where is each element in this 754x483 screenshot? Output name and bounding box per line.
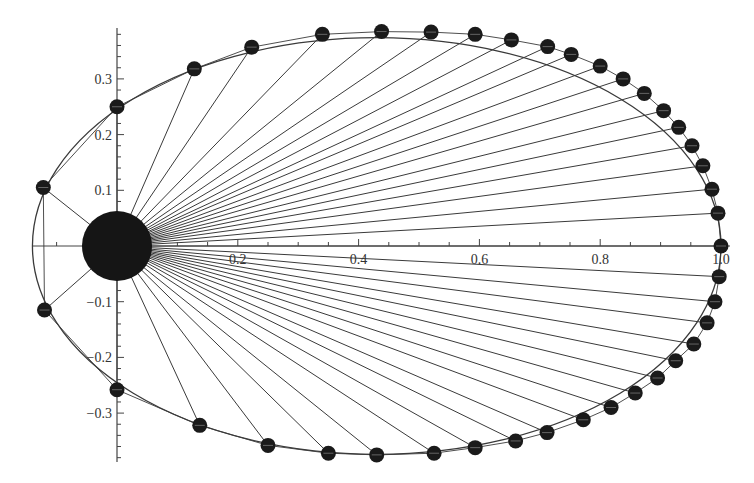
radial-line bbox=[117, 189, 712, 246]
y-tick-label: 0.2 bbox=[95, 128, 113, 143]
y-tick-label: −0.1 bbox=[87, 295, 112, 310]
orbit-chart: 0.20.40.60.81.0−0.3−0.2−0.10.10.20.3 bbox=[0, 0, 754, 483]
radial-line bbox=[117, 34, 475, 246]
radial-line bbox=[117, 146, 692, 246]
radial-line bbox=[117, 246, 583, 420]
x-tick-label: 0.2 bbox=[229, 252, 247, 267]
radial-line bbox=[117, 40, 511, 246]
y-tick-label: −0.3 bbox=[87, 406, 112, 421]
central-body bbox=[82, 211, 152, 281]
radial-line bbox=[117, 93, 644, 246]
radial-line bbox=[117, 213, 718, 246]
radial-line bbox=[117, 246, 611, 408]
y-tick-label: 0.1 bbox=[95, 183, 113, 198]
x-tick-label: 0.4 bbox=[350, 252, 368, 267]
radial-line bbox=[117, 246, 328, 453]
radial-line bbox=[117, 246, 658, 378]
radial-line bbox=[117, 79, 623, 246]
radial-line bbox=[117, 127, 679, 246]
radial-line bbox=[117, 66, 600, 246]
radial-line bbox=[117, 166, 703, 246]
radial-line bbox=[117, 246, 268, 445]
radial-line bbox=[117, 246, 715, 302]
y-tick-label: 0.3 bbox=[95, 72, 113, 87]
x-tick-label: 1.0 bbox=[712, 252, 730, 267]
x-tick-label: 0.6 bbox=[471, 252, 489, 267]
radial-line bbox=[117, 47, 252, 246]
radial-line bbox=[117, 34, 322, 246]
sun-icon bbox=[82, 211, 152, 281]
y-tick-label: −0.2 bbox=[87, 350, 112, 365]
radial-line bbox=[117, 32, 382, 246]
x-tick-label: 0.8 bbox=[591, 252, 609, 267]
radial-line bbox=[117, 246, 516, 441]
